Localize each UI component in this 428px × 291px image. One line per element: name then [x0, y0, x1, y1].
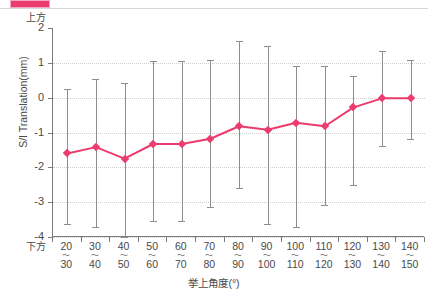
error-cap-high-70~80 [207, 60, 214, 61]
error-bar-30~40 [96, 79, 97, 228]
error-cap-low-100~110 [293, 227, 300, 228]
y-tick-mark-1 [48, 63, 53, 64]
error-cap-high-110~120 [321, 66, 328, 67]
error-cap-low-90~100 [264, 224, 271, 225]
y-tick-mark-0 [48, 98, 53, 99]
error-bar-120~130 [353, 76, 354, 185]
data-point-120~130 [349, 103, 357, 111]
error-cap-low-20~30 [64, 224, 71, 225]
y-tick-label--2: -2 [22, 160, 44, 172]
data-point-60~70 [178, 140, 186, 148]
x-cat-high-12: 150 [393, 259, 427, 270]
error-bar-100~110 [296, 66, 297, 228]
y-tick-label-2: 2 [22, 21, 44, 33]
data-point-70~80 [206, 135, 214, 143]
y-tick-label--3: -3 [22, 195, 44, 207]
error-cap-low-30~40 [92, 227, 99, 228]
gridline-y--3 [53, 202, 425, 203]
y-tick-label--1: -1 [22, 126, 44, 138]
error-cap-low-60~70 [178, 221, 185, 222]
error-cap-high-90~100 [264, 46, 271, 47]
y-tick-label-1: 1 [22, 56, 44, 68]
data-point-50~60 [149, 140, 157, 148]
data-point-130~140 [378, 94, 386, 102]
error-cap-high-50~60 [150, 61, 157, 62]
error-bar-110~120 [325, 66, 326, 205]
error-cap-low-70~80 [207, 207, 214, 208]
y-tick-mark--2 [48, 167, 53, 168]
error-cap-low-130~140 [379, 146, 386, 147]
y-tick-label-0: 0 [22, 91, 44, 103]
x-axis-title: 挙上角度(°) [0, 275, 428, 290]
legend-color-swatch [10, 0, 50, 8]
data-point-140~150 [406, 94, 414, 102]
error-cap-low-110~120 [321, 205, 328, 206]
error-cap-low-120~130 [350, 185, 357, 186]
error-cap-low-140~150 [407, 139, 414, 140]
error-cap-low-80~90 [236, 188, 243, 189]
error-cap-high-30~40 [92, 79, 99, 80]
y-tick-mark--1 [48, 133, 53, 134]
y-tick-label--4: -4 [22, 230, 44, 242]
header-divider [0, 8, 428, 9]
error-cap-high-60~70 [178, 61, 185, 62]
data-point-30~40 [92, 143, 100, 151]
error-cap-low-40~50 [121, 237, 128, 238]
error-bar-70~80 [210, 60, 211, 207]
data-point-100~110 [292, 118, 300, 126]
error-bar-80~90 [239, 41, 240, 188]
error-bar-90~100 [268, 46, 269, 224]
data-point-20~30 [63, 149, 71, 157]
error-cap-high-20~30 [64, 89, 71, 90]
error-cap-low-50~60 [150, 221, 157, 222]
data-point-80~90 [235, 122, 243, 130]
error-cap-high-130~140 [379, 51, 386, 52]
error-cap-high-120~130 [350, 76, 357, 77]
error-cap-high-40~50 [121, 83, 128, 84]
plot-area [52, 28, 424, 237]
y-tick-mark-2 [48, 28, 53, 29]
error-cap-high-140~150 [407, 60, 414, 61]
data-point-40~50 [120, 154, 128, 162]
data-point-110~120 [321, 122, 329, 130]
error-cap-high-80~90 [236, 41, 243, 42]
error-cap-high-100~110 [293, 66, 300, 67]
x-category-label-140~150: 140〜150 [393, 241, 427, 270]
y-tick-mark--3 [48, 202, 53, 203]
